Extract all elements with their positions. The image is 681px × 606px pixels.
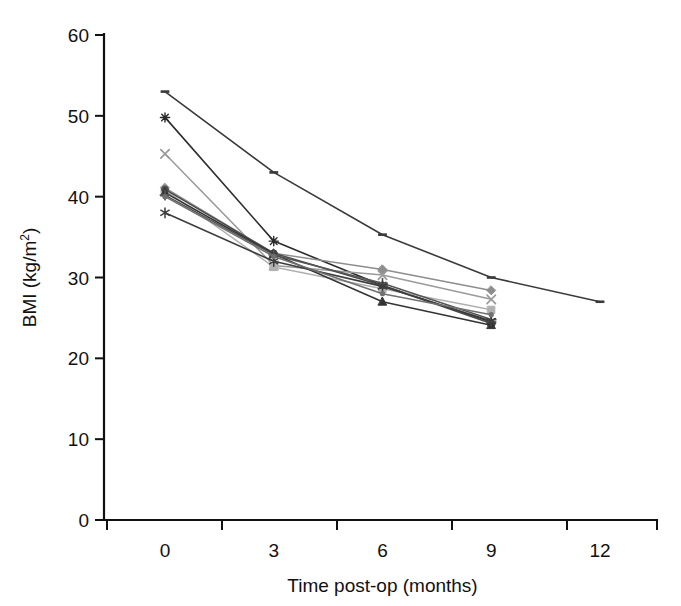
x-tick-label: 6 <box>377 540 388 561</box>
axis-labels-group: 0102030405060036912Time post-op (months)… <box>18 25 611 596</box>
data-point-marker <box>271 254 276 259</box>
data-point-marker <box>487 286 496 295</box>
series-line <box>165 190 491 310</box>
data-point-marker <box>160 113 169 122</box>
bmi-line-chart-figure: 0102030405060036912Time post-op (months)… <box>0 0 681 606</box>
data-point-marker <box>161 208 169 218</box>
data-point-marker <box>378 233 387 236</box>
series-group <box>160 90 604 328</box>
data-point-marker <box>161 150 169 158</box>
data-series <box>162 194 493 317</box>
data-point-marker <box>596 300 605 303</box>
data-series <box>160 190 495 324</box>
data-point-marker <box>162 194 167 199</box>
data-point-marker <box>269 171 278 174</box>
y-tick-label: 30 <box>68 268 89 289</box>
svg-text:BMI (kg/m2): BMI (kg/m2) <box>18 228 40 328</box>
data-series <box>161 187 494 314</box>
series-line <box>165 197 491 315</box>
chart-canvas: 0102030405060036912Time post-op (months)… <box>0 0 681 606</box>
y-tick-label: 0 <box>78 510 89 531</box>
x-tick-label: 9 <box>486 540 497 561</box>
data-point-marker <box>269 237 278 246</box>
x-tick-label: 0 <box>160 540 171 561</box>
data-series <box>161 150 496 304</box>
y-tick-label: 60 <box>68 25 89 46</box>
x-axis-title: Time post-op (months) <box>287 575 477 596</box>
y-tick-label: 10 <box>68 429 89 450</box>
y-tick-label: 50 <box>68 106 89 127</box>
x-tick-label: 3 <box>268 540 279 561</box>
data-point-marker <box>161 90 170 93</box>
data-point-marker <box>489 312 494 317</box>
y-axis-title: BMI (kg/m2) <box>18 228 40 328</box>
y-tick-label: 20 <box>68 348 89 369</box>
x-tick-label: 12 <box>589 540 610 561</box>
data-point-marker <box>487 276 496 279</box>
y-tick-label: 40 <box>68 187 89 208</box>
data-point-marker <box>380 291 385 296</box>
